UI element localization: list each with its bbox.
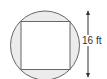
inscribed-square [21,22,70,70]
arrowhead-down-icon [86,73,90,78]
arrowhead-up-icon [86,10,90,15]
dimension-label: 16 ft [81,35,102,46]
